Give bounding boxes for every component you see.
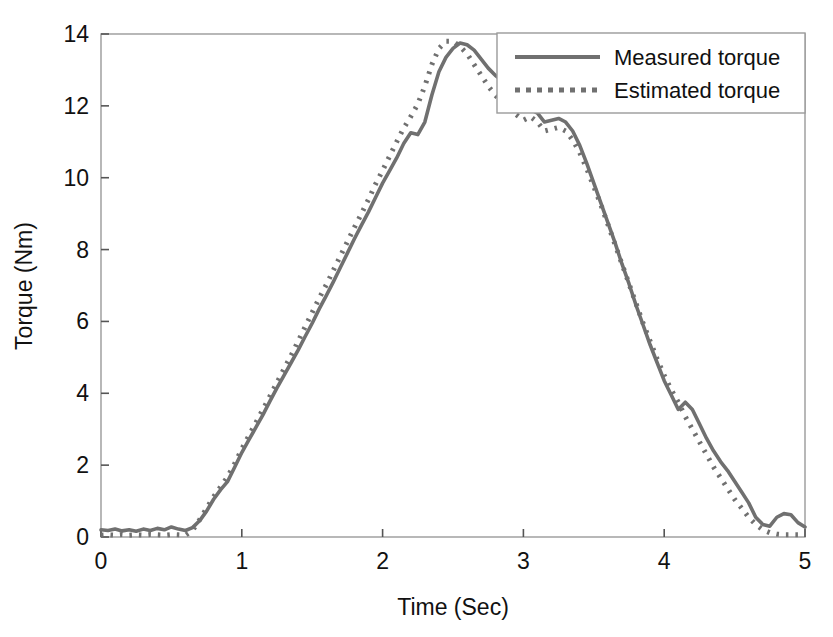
legend-label-measured: Measured torque <box>614 45 780 70</box>
series-line-measured <box>101 43 805 531</box>
x-tick-label: 5 <box>799 548 812 574</box>
x-axis-title: Time (Sec) <box>397 594 509 620</box>
x-tick-label: 4 <box>658 548 671 574</box>
legend-label-estimated: Estimated torque <box>614 78 780 103</box>
y-axis-title: Torque (Nm) <box>11 222 37 350</box>
torque-line-chart: 02468101214 012345 Time (Sec) Torque (Nm… <box>0 0 833 637</box>
y-tick-label: 0 <box>76 524 89 550</box>
x-tick-label: 1 <box>235 548 248 574</box>
y-tick-label: 4 <box>76 380 89 406</box>
y-tick-label: 12 <box>63 93 89 119</box>
x-tick-label: 0 <box>95 548 108 574</box>
x-axis-ticks: 012345 <box>95 529 812 574</box>
series-line-estimated <box>101 41 805 535</box>
y-tick-label: 6 <box>76 308 89 334</box>
y-axis-ticks: 02468101214 <box>63 21 109 550</box>
chart-figure: 02468101214 012345 Time (Sec) Torque (Nm… <box>0 0 833 637</box>
y-tick-label: 14 <box>63 21 89 47</box>
legend: Measured torque Estimated torque <box>497 33 805 113</box>
data-series-group <box>101 41 805 535</box>
y-tick-label: 8 <box>76 237 89 263</box>
y-tick-label: 10 <box>63 165 89 191</box>
y-tick-label: 2 <box>76 452 89 478</box>
x-tick-label: 3 <box>517 548 530 574</box>
x-tick-label: 2 <box>376 548 389 574</box>
